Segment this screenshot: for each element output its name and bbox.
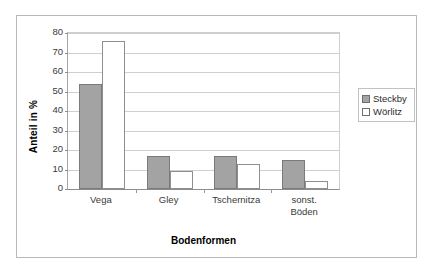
bar-wrlitz-vega	[102, 41, 125, 189]
x-axis-tick-labels: VegaGleyTschernitzasonst.Böden	[67, 194, 340, 228]
x-axis-tick-label: sonst.Böden	[270, 194, 338, 217]
y-axis-tick-label: 0	[39, 183, 63, 193]
x-axis-tick-label-line: Gley	[135, 194, 203, 206]
x-axis-title: Bodenformen	[67, 235, 340, 246]
legend-item-steckby[interactable]: Steckby	[362, 92, 411, 105]
y-axis-tick-label: 60	[39, 66, 63, 76]
y-axis-tick-label: 10	[39, 164, 63, 174]
y-axis-tick-mark	[65, 72, 68, 73]
x-axis-tick-label-line: Vega	[67, 194, 135, 206]
chart-figure: Anteil in % 01020304050607080 VegaGleyTs…	[16, 15, 417, 258]
x-axis-category-separator	[271, 189, 272, 193]
bar-wrlitz-tschernitza	[237, 164, 260, 189]
x-axis-tick-label-line: Böden	[270, 206, 338, 218]
plot-area	[67, 32, 340, 190]
x-axis-tick-label: Vega	[67, 194, 135, 206]
y-axis-tick-mark	[65, 53, 68, 54]
y-axis-tick-mark	[65, 170, 68, 171]
y-axis-tick-mark	[65, 92, 68, 93]
legend-item-wrlitz[interactable]: Wörlitz	[362, 105, 411, 118]
y-axis-tick-labels: 01020304050607080	[39, 25, 63, 183]
x-axis-category-separator	[204, 189, 205, 193]
legend-swatch-icon	[362, 108, 370, 116]
bar-steckby-tschernitza	[214, 156, 237, 189]
gridline	[68, 33, 339, 34]
x-axis-category-separator	[136, 189, 137, 193]
x-axis-tick-label: Gley	[135, 194, 203, 206]
bar-wrlitz-sonstbden	[305, 181, 328, 189]
bar-steckby-vega	[79, 84, 102, 189]
y-axis-tick-label: 80	[39, 27, 63, 37]
y-axis-tick-mark	[65, 189, 68, 190]
y-axis-title-text: Anteil in %	[29, 99, 40, 152]
bar-steckby-gley	[147, 156, 170, 189]
y-axis-tick-mark	[65, 131, 68, 132]
chart-legend: SteckbyWörlitz	[358, 88, 415, 122]
x-axis-tick-label-line: Tschernitza	[203, 194, 271, 206]
y-axis-tick-label: 40	[39, 105, 63, 115]
bar-steckby-sonstbden	[282, 160, 305, 189]
y-axis-tick-label: 20	[39, 144, 63, 154]
legend-item-label: Wörlitz	[373, 106, 402, 117]
y-axis-tick-mark	[65, 111, 68, 112]
y-axis-tick-label: 50	[39, 86, 63, 96]
y-axis-tick-label: 30	[39, 125, 63, 135]
bar-wrlitz-gley	[170, 171, 193, 189]
y-axis-tick-mark	[65, 150, 68, 151]
legend-swatch-icon	[362, 95, 370, 103]
x-axis-tick-label-line: sonst.	[270, 194, 338, 206]
y-axis-tick-mark	[65, 33, 68, 34]
legend-item-label: Steckby	[373, 93, 407, 104]
y-axis-tick-label: 70	[39, 47, 63, 57]
x-axis-tick-label: Tschernitza	[203, 194, 271, 206]
